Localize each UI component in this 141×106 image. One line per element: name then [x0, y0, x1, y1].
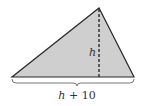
altitude-label: h [89, 46, 96, 59]
base-label: h + 10 [58, 89, 95, 102]
triangle [12, 8, 134, 77]
base-label-variable: h [58, 89, 65, 102]
base-brace [12, 79, 134, 86]
triangle-diagram: h h + 10 [0, 0, 141, 106]
base-label-offset: + 10 [65, 89, 95, 102]
